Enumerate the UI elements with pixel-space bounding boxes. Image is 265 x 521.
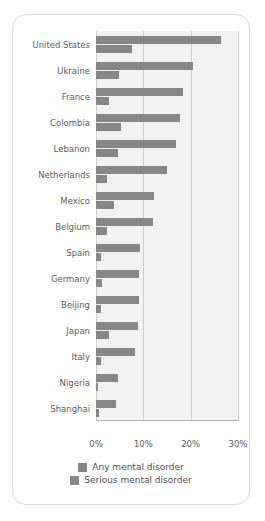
bar-serious [96,123,121,131]
y-axis-label-japan: Japan [66,327,90,336]
bar-group: Spain [96,239,238,265]
x-tick-30pct: 30% [229,439,248,449]
chart-card: United StatesUkraineFranceColombiaLebano… [12,14,250,505]
x-tick-0pct: 0% [89,439,103,449]
y-axis-label-belgium: Belgium [55,223,90,232]
bar-group: United States [96,31,238,57]
bar-serious [96,201,114,209]
bar-group: Japan [96,317,238,343]
bar-group: Shanghai [96,395,238,421]
bar-serious [96,71,119,79]
bar-any [96,374,118,382]
bar-serious [96,383,98,391]
y-axis-label-ukraine: Ukraine [57,67,90,76]
bar-group: Italy [96,343,238,369]
bar-any [96,62,193,70]
x-tick-10pct: 10% [134,439,153,449]
y-axis-label-netherlands: Netherlands [38,171,90,180]
plot-area: United StatesUkraineFranceColombiaLebano… [96,31,238,421]
bar-any [96,218,153,226]
bar-any [96,296,139,304]
y-axis-label-spain: Spain [66,249,90,258]
bar-group: Ukraine [96,57,238,83]
legend-swatch-icon [78,463,87,472]
bar-any [96,400,116,408]
bar-group: France [96,83,238,109]
bar-serious [96,279,102,287]
y-axis-label-beijing: Beijing [61,301,90,310]
y-axis-label-france: France [62,93,90,102]
y-axis-label-lebanon: Lebanon [54,145,90,154]
legend-item[interactable]: Any mental disorder [78,463,183,472]
bar-group: Beijing [96,291,238,317]
bar-serious [96,45,132,53]
bar-any [96,36,221,44]
bar-serious [96,149,118,157]
bar-group: Belgium [96,213,238,239]
bar-serious [96,357,101,365]
y-axis-label-united-states: United States [32,41,90,50]
bar-any [96,192,154,200]
y-axis-label-nigeria: Nigeria [60,379,90,388]
legend-swatch-icon [70,476,79,485]
legend-item[interactable]: Serious mental disorder [70,476,192,485]
y-axis-label-shanghai: Shanghai [50,405,90,414]
legend-label: Serious mental disorder [84,476,192,485]
bar-serious [96,409,99,417]
bar-any [96,244,140,252]
y-axis-label-mexico: Mexico [60,197,90,206]
y-axis-label-colombia: Colombia [50,119,90,128]
bar-any [96,88,183,96]
x-tick-20pct: 20% [181,439,200,449]
bar-any [96,114,180,122]
chart-legend: Any mental disorderSerious mental disord… [13,463,249,485]
bar-group: Nigeria [96,369,238,395]
y-axis-label-italy: Italy [72,353,90,362]
bar-serious [96,331,109,339]
bar-group: Netherlands [96,161,238,187]
bar-group: Mexico [96,187,238,213]
bar-group: Lebanon [96,135,238,161]
x-axis-baseline [96,420,238,421]
gridline-30pct [238,31,239,421]
bar-group: Colombia [96,109,238,135]
bar-any [96,270,139,278]
bar-any [96,322,138,330]
bar-serious [96,97,109,105]
bar-any [96,348,135,356]
legend-label: Any mental disorder [92,463,183,472]
bar-serious [96,253,101,261]
bar-serious [96,305,101,313]
bar-group: Germany [96,265,238,291]
bar-serious [96,227,107,235]
bar-any [96,140,176,148]
bar-serious [96,175,107,183]
y-axis-label-germany: Germany [51,275,90,284]
bar-any [96,166,167,174]
